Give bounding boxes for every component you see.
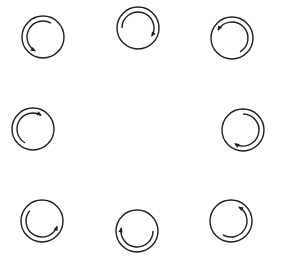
outer-ring: [117, 7, 159, 49]
outer-ring: [222, 109, 264, 151]
outer-ring: [22, 16, 64, 58]
rotation-icon-top-left: [18, 12, 68, 62]
arrowhead-icon: [54, 226, 58, 231]
rotation-icon-bottom-left: [17, 196, 67, 246]
rotation-arc: [235, 114, 259, 146]
outer-ring: [12, 108, 54, 150]
rotation-icon-bottom-right: [206, 196, 256, 246]
rotation-icon-middle-left: [8, 104, 58, 154]
rotation-arc: [218, 22, 248, 52]
rotation-icon-top-right: [207, 13, 257, 63]
rotation-arc: [26, 211, 57, 237]
rotation-arc: [17, 113, 41, 143]
rotation-arc: [122, 12, 154, 36]
rotation-icon-middle-right: [218, 105, 268, 155]
rotation-arc: [121, 228, 153, 247]
rotation-diagram-canvas: [0, 0, 281, 258]
outer-ring: [211, 17, 253, 59]
rotation-icon-top-center: [113, 3, 163, 53]
arrowhead-icon: [118, 227, 122, 232]
rotation-icon-bottom-center: [112, 206, 162, 256]
rotation-arc: [223, 207, 247, 237]
rotation-arc: [27, 21, 51, 51]
outer-ring: [210, 200, 252, 242]
outer-ring: [21, 200, 63, 242]
